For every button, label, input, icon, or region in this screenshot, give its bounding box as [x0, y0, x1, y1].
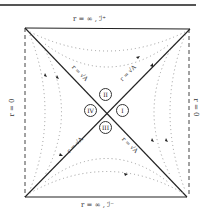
- bottom-boundary-label: r = ∞ , ℐ⁻: [81, 202, 114, 209]
- scri-plus-boundary: [25, 28, 190, 29]
- right-boundary-label: r = 0: [192, 98, 199, 116]
- region-iii-marker: III: [99, 121, 112, 134]
- region-iv-marker: IV: [84, 104, 97, 117]
- region-ii-marker: II: [99, 88, 112, 101]
- penrose-diagram: [0, 0, 210, 219]
- top-boundary-label: r = ∞ , ℐ⁺: [73, 16, 106, 23]
- region-i-marker: I: [116, 104, 129, 117]
- left-boundary-label: r = 0: [9, 98, 16, 116]
